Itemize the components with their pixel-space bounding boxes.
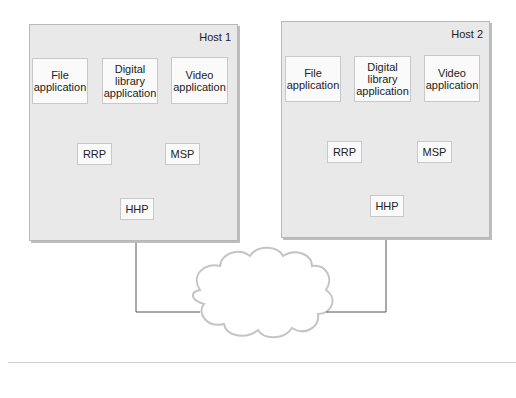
host-1-file-application: File application <box>32 58 88 104</box>
host-1-label: Host 1 <box>199 31 231 43</box>
host-2-video-application: Video application <box>424 55 480 102</box>
host-1-msp: MSP <box>165 143 200 165</box>
host-2-file-application: File application <box>285 56 341 102</box>
host-1-digital-library-application: Digital library application <box>102 58 158 104</box>
host-2-hhp: HHP <box>370 195 404 217</box>
host-1-hhp: HHP <box>120 198 154 220</box>
host-2-rrp: RRP <box>327 141 362 163</box>
host-1-rrp: RRP <box>77 143 112 165</box>
host-2-digital-library-application: Digital library application <box>354 56 411 102</box>
host-1-video-application: Video application <box>171 57 228 104</box>
page-divider <box>8 362 516 363</box>
network-cloud-icon <box>193 248 332 338</box>
host-2-msp: MSP <box>417 141 452 163</box>
host-2-label: Host 2 <box>451 28 483 40</box>
